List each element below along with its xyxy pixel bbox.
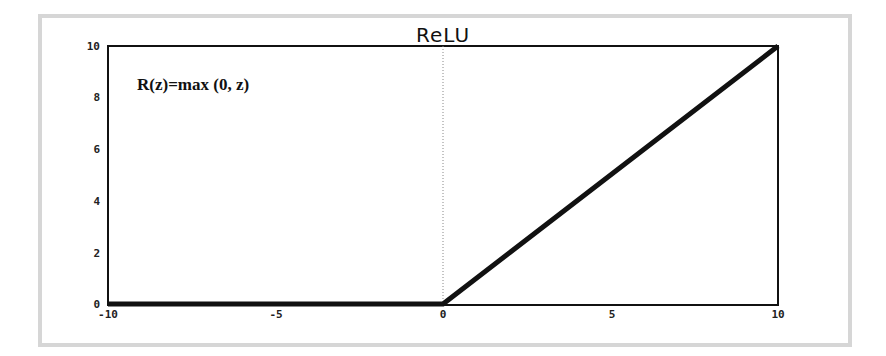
x-tick: 0 [440,308,447,321]
x-tick: 5 [609,308,616,321]
y-tick: 8 [93,91,100,104]
y-tick: 10 [87,40,100,53]
relu-chart: ReLU R(z)=max (0, z) 0 2 4 6 8 10 -10 -5… [0,0,886,356]
x-tick: -10 [98,308,118,321]
x-tick: 10 [771,308,784,321]
y-tick: 2 [93,247,100,260]
x-tick: -5 [269,308,282,321]
y-tick: 6 [93,143,100,156]
chart-title: ReLU [416,23,470,47]
formula-annotation: R(z)=max (0, z) [137,75,249,94]
y-tick: 4 [93,195,100,208]
